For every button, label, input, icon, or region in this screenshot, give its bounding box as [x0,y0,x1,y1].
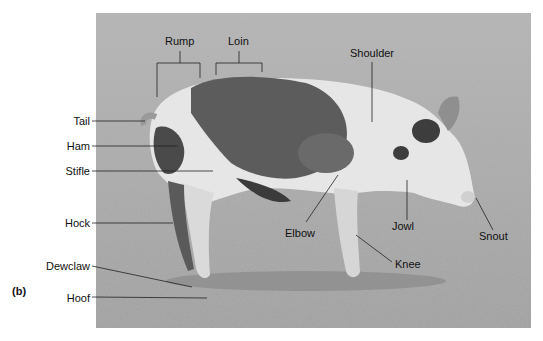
label-shoulder: Shoulder [350,47,394,59]
label-hock: Hock [40,217,90,229]
label-snout: Snout [479,230,508,242]
label-stifle: Stifle [40,165,90,177]
label-tail: Tail [50,115,90,127]
label-elbow: Elbow [285,227,315,239]
panel-label: (b) [12,285,26,297]
label-knee: Knee [395,258,421,270]
label-ham: Ham [50,140,90,152]
label-jowl: Jowl [392,220,414,232]
label-rump: Rump [165,35,194,47]
label-hoof: Hoof [40,292,90,304]
label-dewclaw: Dewclaw [30,260,90,272]
label-loin: Loin [228,35,249,47]
